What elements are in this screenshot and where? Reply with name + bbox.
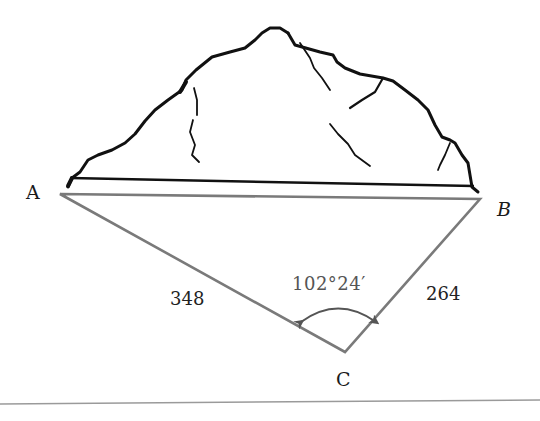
mountain-triangle-diagram [0, 0, 540, 421]
triangle-abc [60, 194, 480, 352]
mountain-crack [190, 88, 199, 162]
vertex-label-c: C [336, 368, 351, 390]
angle-c-measure: 102°24′ [292, 273, 366, 294]
mountain-icon [68, 28, 478, 192]
mountain-right-slope [288, 33, 478, 192]
mountain-crack [438, 143, 450, 170]
mountain-crack [330, 124, 370, 166]
angle-arc-icon [301, 309, 376, 323]
mountain-shadow [68, 82, 186, 186]
vertex-label-a: A [26, 181, 40, 203]
mountain-left-slope [68, 28, 288, 187]
mountain-baseline [70, 178, 474, 186]
side-ac-length: 348 [170, 288, 204, 309]
mountain-crack [350, 78, 383, 108]
footer-divider [0, 400, 540, 404]
side-bc-length: 264 [426, 283, 460, 304]
vertex-label-b: B [497, 198, 511, 220]
